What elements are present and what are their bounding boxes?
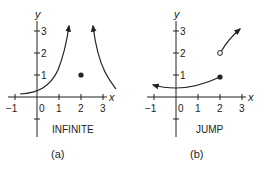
x-tick-label: 1 <box>56 103 62 114</box>
x-tick-label: −1 <box>6 103 18 114</box>
panel-title: INFINITE <box>52 124 94 135</box>
y-axis-label: y <box>34 8 42 20</box>
left-piece-curve <box>153 77 220 88</box>
x-axis-label: x <box>247 91 254 103</box>
y-tick-label: 1 <box>41 70 47 81</box>
right-piece-curve <box>222 29 241 51</box>
x-tick-label: 2 <box>217 103 223 114</box>
panel-a: x y −1 0 1 2 3 1 2 3 INFINITE (a) <box>6 8 116 160</box>
y-tick-label: 2 <box>180 48 186 59</box>
panel-caption: (b) <box>190 148 203 160</box>
figure: x y −1 0 1 2 3 1 2 3 INFINITE (a) x y <box>0 0 264 169</box>
filled-point <box>78 72 83 77</box>
x-tick-label: 2 <box>78 103 84 114</box>
open-point <box>218 51 223 56</box>
y-tick-label: 1 <box>180 70 186 81</box>
right-branch-curve <box>93 26 116 89</box>
panel-caption: (a) <box>51 148 64 160</box>
y-axis-label: y <box>173 8 181 20</box>
x-tick-label: 3 <box>239 103 245 114</box>
x-tick-label: 0 <box>39 103 45 114</box>
y-tick-label: 2 <box>41 48 47 59</box>
panel-b: x y −1 0 1 2 3 1 2 3 JUMP (b) <box>145 8 254 160</box>
y-tick-label: 3 <box>41 26 47 37</box>
x-tick-label: 3 <box>100 103 106 114</box>
x-tick-label: 0 <box>178 103 184 114</box>
x-tick-label: −1 <box>145 103 157 114</box>
filled-point <box>217 74 222 79</box>
panel-title: JUMP <box>196 124 224 135</box>
y-tick-label: 3 <box>180 26 186 37</box>
x-axis-label: x <box>108 91 115 103</box>
x-tick-label: 1 <box>195 103 201 114</box>
